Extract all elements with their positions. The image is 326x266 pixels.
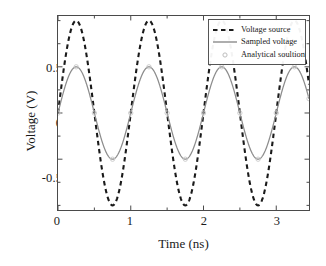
legend-label-voltage-source: Voltage source <box>238 25 290 35</box>
x-tick-label-0: 0 <box>54 214 60 229</box>
chart-figure: Voltage (V) 0.5 0 -0.5 0 1 2 3 Time (ns)… <box>0 0 326 266</box>
legend-item-voltage-source: Voltage source <box>212 24 301 36</box>
legend-item-sampled-voltage: Sampled voltage <box>212 36 301 48</box>
x-axis-label: Time (ns) <box>57 236 310 252</box>
chart-legend: Voltage source Sampled voltage Analytica… <box>208 19 306 65</box>
legend-item-analytical-soultion: Analytical soultion <box>212 49 301 61</box>
solid-line-icon <box>212 37 238 47</box>
x-tick-label-2: 2 <box>201 214 207 229</box>
x-tick-label-3: 3 <box>274 214 280 229</box>
x-tick-label-1: 1 <box>127 214 133 229</box>
circle-marker-icon <box>212 50 238 60</box>
legend-label-sampled-voltage: Sampled voltage <box>238 37 297 47</box>
y-axis-label: Voltage (V) <box>23 46 39 196</box>
legend-label-analytical-soultion: Analytical soultion <box>238 50 305 60</box>
series-markers-analytical-soultion <box>58 65 309 162</box>
dashed-line-icon <box>212 25 238 35</box>
